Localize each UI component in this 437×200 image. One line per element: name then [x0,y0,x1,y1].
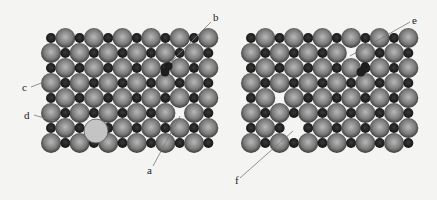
small-atom [60,138,70,148]
large-atom [398,28,418,48]
large-atom [170,118,190,138]
large-atom [241,133,261,153]
large-atom [55,88,75,108]
large-atom [255,118,275,138]
small-atom [360,93,370,103]
large-atom [384,43,404,63]
large-atom [341,88,361,108]
small-atom [175,138,185,148]
small-atom [46,93,56,103]
large-atom [355,103,375,123]
large-atom [55,118,75,138]
small-atom [318,138,328,148]
large-atom [141,118,161,138]
large-atom [298,73,318,93]
large-atom [184,133,204,153]
small-atom [303,93,313,103]
large-atom [41,43,61,63]
large-atom [241,73,261,93]
large-atom [113,58,133,78]
small-atom [403,78,413,88]
large-atom [327,103,347,123]
small-atom [332,63,342,73]
small-atom [260,108,270,118]
small-atom [332,123,342,133]
small-atom [160,33,170,43]
large-atom [127,133,147,153]
small-atom [203,48,213,58]
small-atom [289,138,299,148]
small-atom [403,108,413,118]
large-atom [98,73,118,93]
small-atom [118,48,128,58]
large-atom [398,88,418,108]
large-atom [70,73,90,93]
small-atom [132,63,142,73]
substitutional-atom [84,119,108,143]
label-e: e [412,14,417,26]
label-d: d [24,109,30,121]
large-atom [370,88,390,108]
large-atom [241,43,261,63]
lattice-panel-left [41,28,218,153]
small-atom [118,78,128,88]
large-atom [313,88,333,108]
large-atom [55,28,75,48]
small-atom [189,63,199,73]
small-atom [403,138,413,148]
large-atom [370,118,390,138]
large-atom [255,58,275,78]
large-atom [141,28,161,48]
small-atom [75,63,85,73]
small-atom [146,108,156,118]
large-atom [170,58,190,78]
large-atom [198,88,218,108]
large-atom [113,28,133,48]
large-atom [327,43,347,63]
large-atom [313,58,333,78]
large-atom [184,103,204,123]
small-atom [375,108,385,118]
small-atom [132,33,142,43]
small-atom [260,48,270,58]
small-atom [332,93,342,103]
small-atom [260,138,270,148]
small-atom [118,108,128,118]
small-atom [303,63,313,73]
small-atom [175,78,185,88]
small-atom [346,108,356,118]
small-atom [303,33,313,43]
small-atom [89,78,99,88]
small-atom [132,93,142,103]
large-atom [198,28,218,48]
small-atom [118,138,128,148]
small-atom [89,108,99,118]
large-atom [355,73,375,93]
large-atom [384,133,404,153]
small-atom [289,108,299,118]
large-atom [327,73,347,93]
large-atom [127,103,147,123]
small-atom [103,63,113,73]
small-atom [189,123,199,133]
small-atom [146,78,156,88]
small-atom [389,63,399,73]
small-atom [246,33,256,43]
small-atom [289,48,299,58]
small-atom [203,78,213,88]
small-atom [246,123,256,133]
small-atom [275,123,285,133]
large-atom [184,73,204,93]
large-atom [398,58,418,78]
large-atom [370,28,390,48]
small-atom [360,33,370,43]
large-atom [313,28,333,48]
interstitial-atom [165,62,173,70]
small-atom [403,48,413,58]
small-atom [189,93,199,103]
large-atom [41,133,61,153]
small-atom [60,48,70,58]
small-atom [260,78,270,88]
small-atom [389,123,399,133]
defect-lattice-figure: abcdef [0,0,437,200]
